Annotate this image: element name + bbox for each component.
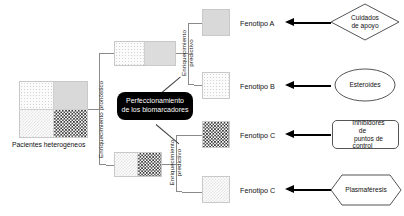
patients-block-label: Pacientes heterogéneos (12, 141, 85, 148)
callout-line-1: Perfeccionamiento (126, 97, 184, 104)
arrow-shaft-c1 (293, 134, 331, 137)
prognostic-group-upper-left-half (115, 42, 145, 65)
treatment-label-c1-line1: Inhibidores de (346, 119, 384, 134)
prognostic-group-lower-block (114, 152, 162, 177)
phenotype-label-a: Fenotipo A (240, 19, 274, 28)
patients-quadrant-bottom-left (20, 110, 54, 138)
patients-quadrant-bottom-right (54, 110, 88, 138)
phenotype-block-a (202, 9, 230, 36)
diagram-canvas: Pacientes heterogéneos Enriquecimiento p… (0, 0, 404, 216)
arrow-shaft-a (293, 22, 331, 25)
treatment-label-a-line2: de apoyo (345, 22, 384, 29)
treatment-shape-diamond-a: Cuidados de apoyo (330, 3, 400, 41)
connector-stage2-lower-to-row3 (182, 135, 202, 136)
connector-stage2-upper-to-row1 (194, 23, 202, 24)
phenotype-block-b (202, 72, 230, 99)
biomarker-refinement-callout: Perfeccionamiento de los biomarcadores (117, 92, 193, 120)
treatment-arrow-c1 (285, 130, 331, 139)
phenotype-block-c2 (202, 176, 230, 203)
arrow-shaft-c2 (293, 189, 331, 192)
treatment-arrow-a (285, 18, 331, 27)
connector-stage2-upper-to-row2 (194, 85, 202, 86)
patients-quadrant-top-right (54, 82, 88, 110)
phenotype-block-c1 (202, 121, 230, 148)
phenotype-label-b: Fenotipo B (240, 82, 275, 91)
treatment-shape-hexagon-c2: Plasmaféresis (330, 174, 402, 206)
treatment-label-b: Esteroides (343, 81, 386, 89)
connector-stage2-lower-to-row4 (182, 192, 202, 193)
stage2-label-lower: Enriquecimiento predictivo (168, 135, 183, 190)
patients-quadrant-top-left (20, 82, 54, 110)
prognostic-group-lower-left-half (115, 153, 138, 176)
connector-stage1-to-lower-group (106, 165, 114, 166)
phenotype-label-c1: Fenotipo C (240, 131, 275, 140)
phenotype-label-c2: Fenotipo C (240, 186, 275, 195)
callout-line-2: de los biomarcadores (122, 106, 189, 113)
arrow-shaft-b (293, 85, 331, 88)
treatment-label-c1-line2: puntos de control (348, 135, 383, 150)
treatment-label-c2: Plasmaféresis (339, 186, 392, 194)
stage2-label-upper: Enriquecimiento predictivo (180, 24, 195, 82)
stage1-label: Enriquecimiento pronóstico (97, 81, 104, 158)
treatment-arrow-b (285, 81, 331, 90)
treatment-shape-ellipse-b: Esteroides (334, 68, 396, 102)
prognostic-group-upper-block (114, 41, 176, 66)
treatment-shape-rect-c1: Inhibidores de puntos de control (332, 120, 399, 149)
treatment-arrow-c2 (285, 185, 331, 194)
patients-block (19, 81, 88, 138)
connector-stage1-to-upper-group (106, 53, 114, 54)
treatment-label-a-line1: Cuidados (345, 14, 385, 21)
prognostic-group-lower-right-half (138, 153, 161, 176)
prognostic-group-upper-right-half (145, 42, 175, 65)
